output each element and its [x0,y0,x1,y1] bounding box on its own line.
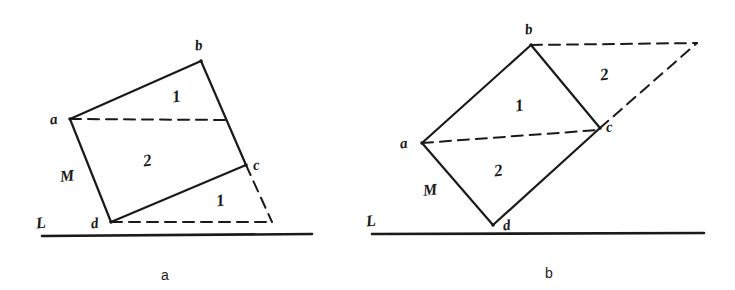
line-label-a-L: L [35,215,46,232]
edge-a-ab [70,61,201,119]
vertex-dot-a-a [68,117,72,121]
vertex-label-a-a: a [49,112,58,128]
figure-canvas: a b c d M L 1 2 1 a a b c d M L 1 2 2 b [0,0,735,290]
region-label-b-2-lower: 2 [493,161,504,179]
vertex-dot-b-a [420,141,424,145]
dashed-segment-b-2 [600,43,697,128]
edge-b-ab [422,45,531,143]
edge-b-cd [493,128,600,225]
dashed-segment-b-0 [422,130,598,143]
edge-a-da [70,119,111,222]
vertex-dot-b-c [598,126,602,130]
line-label-a-M: M [59,167,75,184]
vertex-dot-a-d [109,220,113,224]
dashed-segment-a-2 [246,165,272,222]
line-label-b-M: M [422,181,438,198]
edge-b-bc [531,45,600,128]
baseline-L-panel-a [42,234,312,236]
panel-caption-a: a [161,268,169,282]
vertex-label-b-b: b [524,22,533,38]
geometry-svg [0,0,735,290]
dashed-segment-b-1 [531,43,697,45]
edge-a-bc [201,61,246,165]
vertex-dot-a-b [199,59,203,63]
edge-a-cd [111,165,246,222]
dashed-segment-a-0 [70,119,228,120]
vertex-dot-a-c [244,163,248,167]
line-label-b-L: L [365,213,376,230]
vertex-label-b-a: a [399,136,408,152]
vertex-label-b-c: c [605,120,613,136]
region-label-b-2-upper: 2 [599,65,610,83]
baseline-L-panel-b [372,233,704,234]
vertex-label-a-c: c [252,158,260,174]
vertex-label-b-d: d [502,218,511,234]
panel-caption-b: b [545,266,553,280]
region-label-a-2: 2 [142,151,153,169]
vertex-label-a-d: d [90,216,99,232]
vertex-dot-b-d [491,223,495,227]
vertex-dot-b-b [529,43,533,47]
vertex-label-a-b: b [194,38,203,54]
